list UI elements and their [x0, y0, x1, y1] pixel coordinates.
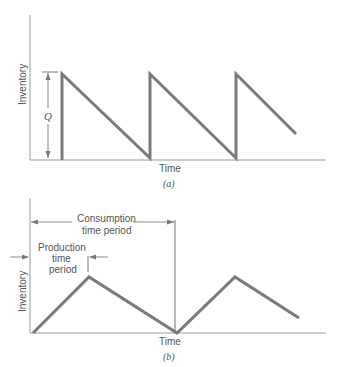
- consumption-arrow-right-icon: [167, 220, 174, 225]
- production-label-line1: Production: [38, 242, 86, 253]
- production-label-line3: period: [49, 264, 77, 275]
- caption-b: (b): [163, 351, 175, 363]
- triangle-series-b: [33, 277, 299, 333]
- figure-a: Q Inventory Time (a): [17, 15, 326, 190]
- figure-b: Consumption time period Production time …: [10, 198, 326, 363]
- x-axis-label-b: Time: [159, 336, 181, 347]
- production-arrow-right-icon: [89, 255, 96, 260]
- y-axis-label-b: Inventory: [17, 271, 28, 312]
- figure-canvas: Q Inventory Time (a) Consumption time pe…: [0, 0, 339, 367]
- q-arrow-down-icon: [46, 151, 51, 158]
- y-axis-label-a: Inventory: [17, 64, 28, 105]
- production-arrow-left-icon: [22, 255, 29, 260]
- consumption-label-line2: time period: [82, 225, 131, 236]
- sawtooth-series-a: [62, 74, 296, 160]
- consumption-label-line1: Consumption: [77, 213, 136, 224]
- consumption-arrow-left-icon: [31, 220, 38, 225]
- production-label-line2: time: [52, 253, 71, 264]
- q-label: Q: [44, 110, 52, 122]
- q-arrow-up-icon: [46, 73, 51, 80]
- x-axis-label-a: Time: [159, 163, 181, 174]
- caption-a: (a): [163, 178, 175, 190]
